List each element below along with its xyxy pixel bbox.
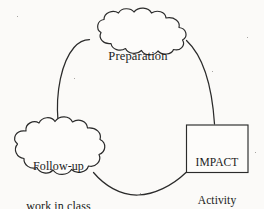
node-impact-activity — [187, 125, 249, 173]
diagram-canvas — [0, 0, 264, 209]
connector-preparation-to-impact — [187, 41, 215, 125]
connector-followup-to-preparation — [57, 40, 89, 122]
node-preparation — [98, 8, 186, 55]
cycle-diagram: Preparation IMPACT Activity at home Foll… — [0, 0, 264, 209]
node-follow-up — [15, 117, 105, 175]
follow-up-cloud-shape — [15, 117, 105, 175]
impact-box-shape — [187, 125, 249, 173]
preparation-cloud-shape — [98, 8, 186, 55]
connector-impact-to-followup — [94, 173, 187, 196]
